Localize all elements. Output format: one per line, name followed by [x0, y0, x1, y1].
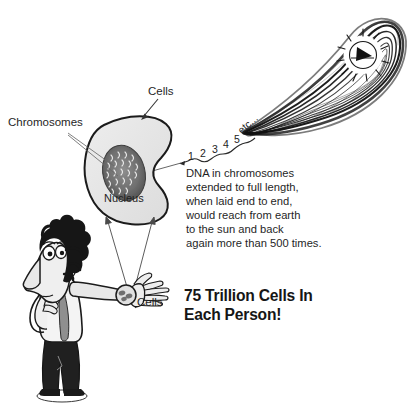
wrist-magnifier-circle — [116, 285, 136, 305]
dna-fact-line-4: would reach from earth — [186, 208, 322, 222]
headline-line-2: Each Person! — [184, 305, 313, 324]
dna-loop-strands — [242, 19, 406, 136]
label-cells-arm: Cells — [137, 297, 163, 309]
dna-fact-line-2: extended to full length, — [186, 180, 322, 194]
dna-fact-line-3: when laid end to end, — [186, 194, 322, 208]
dna-sequence-item-3: 3 — [212, 143, 218, 155]
dna-fact-line-6: again more than 500 times. — [186, 236, 322, 250]
label-cells-top: Cells — [148, 86, 174, 98]
dna-fact-paragraph: DNA in chromosomes extended to full leng… — [186, 166, 322, 251]
dna-fact-line-1: DNA in chromosomes — [186, 166, 322, 180]
label-nucleus: Nucleus — [104, 193, 144, 204]
dna-fact-line-5: to the sun and back — [186, 222, 322, 236]
headline: 75 Trillion Cells In Each Person! — [184, 286, 313, 324]
dna-sequence-item-4: 4 — [223, 138, 229, 150]
headline-line-1: 75 Trillion Cells In — [184, 286, 313, 305]
dna-sequence-item-5: 5 — [234, 133, 240, 145]
label-chromosomes: Chromosomes — [8, 117, 83, 129]
dna-sequence-item-1: 1 — [188, 150, 194, 162]
sun-icon — [337, 29, 389, 81]
dna-sequence-item-2: 2 — [200, 147, 206, 159]
poster-illustration: Cells Chromosomes Nucleus Cells 1 2 3 4 … — [0, 0, 411, 418]
